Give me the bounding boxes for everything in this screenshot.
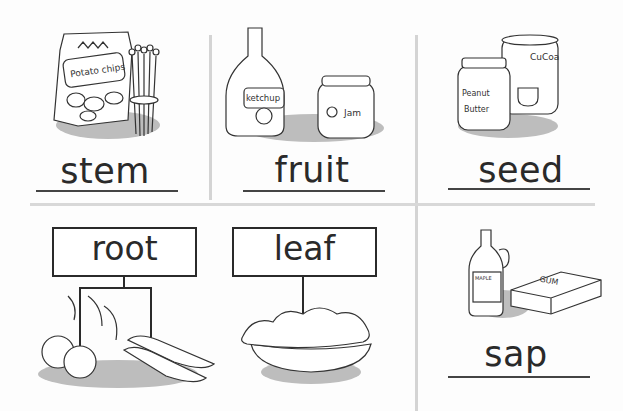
maple-syrup-gum-illustration: MAPLE GUM (463, 228, 603, 328)
cell-seed: CuCoa Peanut Butter seed (418, 0, 623, 203)
beets-carrots-illustration (38, 292, 213, 392)
answer-line-fruit (243, 190, 385, 192)
word-fruit: fruit (237, 150, 387, 190)
cell-stem: Potato chips stem (0, 0, 209, 203)
cocoa-label: CuCoa (530, 52, 559, 62)
salad-bowl-illustration (239, 306, 379, 386)
cell-sap: MAPLE GUM sap (418, 206, 623, 411)
cell-fruit: ketchup Jam fruit (209, 0, 415, 203)
word-sap: sap (441, 334, 591, 374)
jam-label: Jam (343, 108, 361, 118)
cell-leaf: leaf (209, 206, 415, 411)
ketchup-label: ketchup (246, 93, 280, 103)
answer-line-sap (448, 376, 590, 378)
answer-line-stem (36, 190, 178, 192)
peanut-butter-label: Peanut (462, 89, 490, 98)
cell-root: root (0, 206, 209, 411)
potato-chips-asparagus-illustration: Potato chips (28, 30, 188, 150)
maple-label: MAPLE (475, 275, 492, 281)
word-stem: stem (30, 151, 180, 191)
svg-text:Butter: Butter (464, 105, 490, 114)
word-seed: seed (446, 150, 596, 190)
answer-line-seed (448, 188, 590, 190)
ketchup-jam-illustration: ketchup Jam (234, 28, 394, 148)
peanut-butter-cocoa-illustration: CuCoa Peanut Butter (448, 34, 598, 144)
